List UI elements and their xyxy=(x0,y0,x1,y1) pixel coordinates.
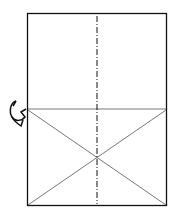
turn-over-arrow-icon xyxy=(10,101,26,126)
fold-diagram xyxy=(0,0,173,218)
